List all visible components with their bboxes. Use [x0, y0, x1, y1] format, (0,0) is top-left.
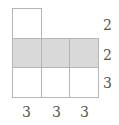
col-label-1: 3: [22, 105, 31, 119]
col-label-3: 3: [80, 105, 89, 119]
col-label-2: 3: [52, 105, 61, 119]
shaded-cell-1: [12, 38, 42, 68]
bottom-cell-3: [69, 67, 99, 98]
top-cell: [12, 8, 42, 39]
row-label-top: 2: [103, 18, 112, 32]
shaded-cell-2: [41, 38, 70, 68]
row-label-middle: 2: [103, 48, 112, 62]
bottom-cell-1: [12, 67, 42, 98]
row-label-bottom: 3: [103, 76, 112, 90]
bottom-cell-2: [41, 67, 70, 98]
shaded-cell-3: [69, 38, 99, 68]
